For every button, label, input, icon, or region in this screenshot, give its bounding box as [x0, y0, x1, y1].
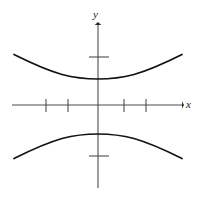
- y-axis-label: y: [93, 9, 98, 20]
- y-axis-arrowhead: [95, 22, 102, 25]
- x-axis-label: x: [186, 99, 191, 110]
- hyperbola-figure: y x: [0, 0, 199, 198]
- plot-canvas: [0, 0, 199, 198]
- x-axis-arrowhead: [182, 102, 184, 109]
